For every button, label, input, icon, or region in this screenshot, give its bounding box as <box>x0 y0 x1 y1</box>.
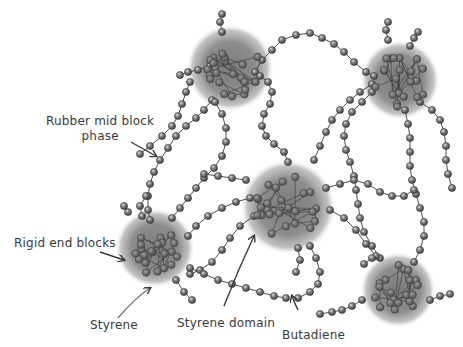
label-rigid-end-blocks: Rigid end blocks <box>14 236 116 251</box>
label-styrene-domain: Styrene domain <box>177 316 275 331</box>
label-rubber-mid-block-line2: phase <box>46 129 154 144</box>
chain <box>204 174 246 180</box>
label-butadiene: Butadiene <box>282 328 345 343</box>
label-rubber-mid-block: Rubber mid block phase <box>46 114 154 144</box>
arrow-styrene-domain <box>224 236 254 306</box>
arrow-styrene <box>118 288 150 318</box>
chain <box>330 210 376 256</box>
label-rubber-mid-block-line1: Rubber mid block <box>46 114 154 129</box>
label-styrene: Styrene <box>90 318 138 333</box>
sbs-polymer-diagram <box>0 0 463 347</box>
domain-left <box>115 208 195 288</box>
chain <box>405 110 424 262</box>
